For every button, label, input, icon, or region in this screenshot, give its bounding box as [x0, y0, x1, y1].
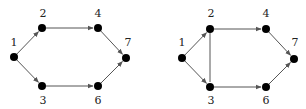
edge-1-3	[17, 60, 39, 83]
edge-6-7	[269, 63, 291, 85]
node-label-2: 2	[40, 7, 47, 20]
node-4	[94, 24, 102, 32]
node-2	[206, 25, 214, 33]
node-label-4: 4	[95, 7, 102, 20]
node-label-3: 3	[40, 94, 47, 107]
node-label-3: 3	[208, 94, 215, 107]
edge-4-7	[101, 31, 123, 54]
node-label-7: 7	[125, 36, 132, 49]
graph-left: 124736	[10, 7, 132, 107]
edge-1-3	[185, 61, 207, 84]
node-4	[262, 25, 270, 33]
node-6	[262, 83, 270, 91]
graph-right: 124736	[178, 7, 299, 107]
node-label-1: 1	[11, 36, 18, 49]
node-3	[38, 82, 46, 90]
node-label-7: 7	[292, 36, 299, 49]
node-label-2: 2	[208, 7, 215, 20]
node-7	[290, 55, 298, 63]
edge-4-7	[269, 32, 291, 55]
node-6	[94, 82, 102, 90]
node-1	[178, 54, 186, 62]
node-3	[206, 83, 214, 91]
node-2	[38, 24, 46, 32]
node-label-6: 6	[263, 94, 270, 107]
node-label-6: 6	[95, 94, 102, 107]
node-label-1: 1	[179, 36, 186, 49]
edge-1-2	[17, 32, 39, 55]
node-1	[10, 53, 18, 61]
node-7	[122, 54, 130, 62]
edge-1-2	[185, 33, 207, 56]
edge-6-7	[101, 62, 123, 84]
diagram-canvas: 124736124736	[0, 0, 306, 109]
node-label-4: 4	[263, 7, 270, 20]
